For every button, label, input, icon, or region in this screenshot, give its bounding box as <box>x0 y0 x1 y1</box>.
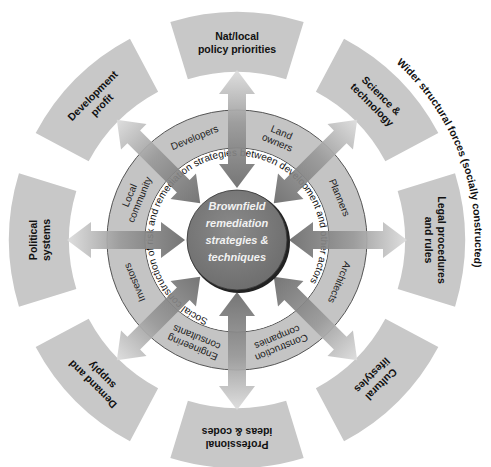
center-line-2: remediation <box>206 217 269 229</box>
center-line-3: strategies & <box>206 234 269 246</box>
brownfield-diagram: Social construction of risk and remediat… <box>0 0 491 467</box>
center-line-1: Brownfield <box>209 200 266 212</box>
outer-force-label-6: Politicalsystems <box>27 219 52 261</box>
outer-force-label-4: Professionalideas & codes <box>202 426 273 451</box>
center-circle: Brownfield remediation strategies & tech… <box>187 190 290 293</box>
center-line-4: techniques <box>208 251 266 263</box>
